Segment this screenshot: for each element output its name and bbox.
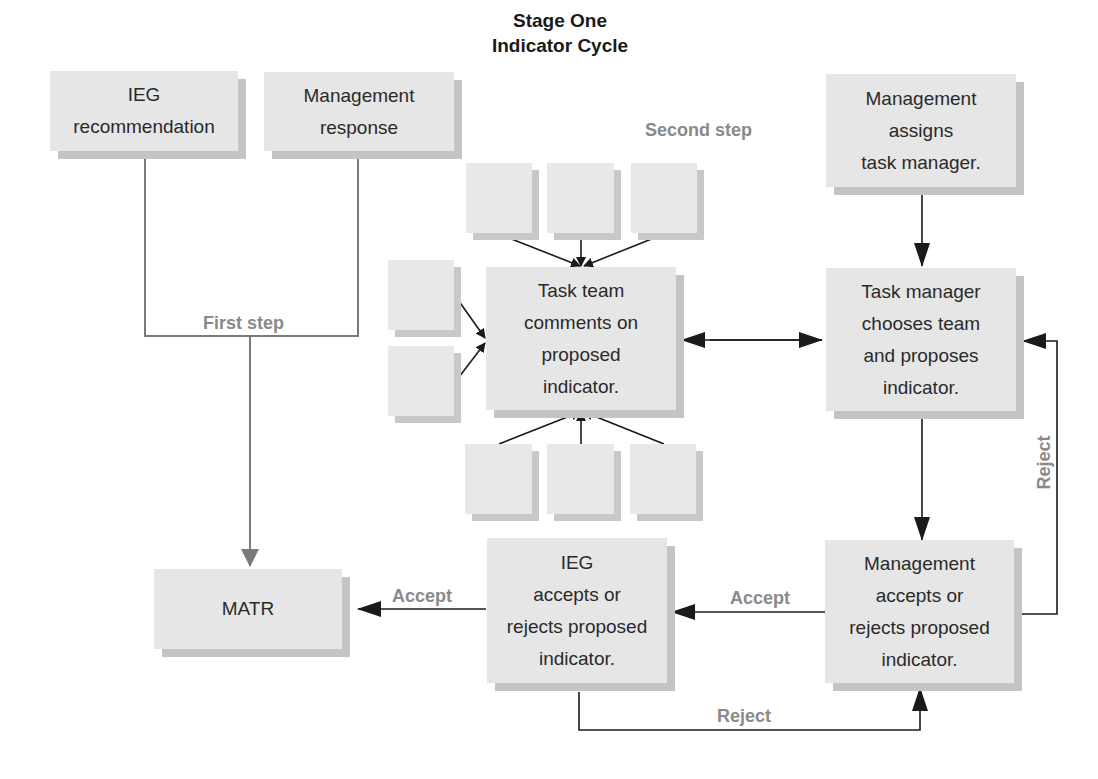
node-task-team-comments: Task team comments on proposed indicator…: [486, 267, 676, 410]
left-feeder-arrows: [456, 297, 485, 381]
node-management-response: Management response: [264, 72, 454, 151]
node-task-manager-chooses: Task manager chooses team and proposes i…: [826, 268, 1016, 411]
team-member-box-top-2: [547, 163, 614, 233]
team-member-box-bottom-3: [630, 444, 696, 514]
first-step-connector: [145, 152, 358, 566]
node-matr: MATR: [154, 569, 342, 649]
node-ieg-accepts: IEG accepts or rejects proposed indicato…: [487, 538, 667, 683]
label-reject-right: Reject: [1034, 433, 1055, 493]
node-management-accepts: Management accepts or rejects proposed i…: [825, 540, 1014, 683]
team-member-box-left-2: [388, 346, 454, 416]
label-accept-to-ieg: Accept: [730, 588, 790, 609]
label-first-step: First step: [203, 313, 284, 334]
label-accept-to-matr: Accept: [392, 586, 452, 607]
label-second-step: Second step: [645, 120, 752, 141]
top-feeder-arrows: [499, 234, 664, 266]
label-reject-bottom: Reject: [717, 706, 771, 727]
node-management-assigns: Management assigns task manager.: [826, 74, 1016, 187]
team-member-box-bottom-2: [547, 444, 614, 514]
bottom-feeder-arrows: [499, 412, 664, 444]
team-member-box-bottom-1: [465, 444, 532, 514]
node-ieg-recommendation: IEG recommendation: [50, 71, 238, 151]
team-member-box-top-3: [631, 163, 697, 233]
team-member-box-top-1: [466, 163, 532, 233]
team-member-box-left-1: [388, 260, 454, 330]
